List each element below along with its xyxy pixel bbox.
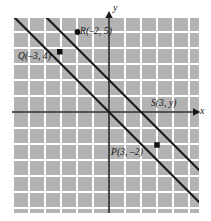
point-marker-P: [154, 142, 160, 148]
point-label-Q: Q(–3, 4): [18, 52, 51, 62]
y-axis-label: y: [113, 3, 117, 13]
point-label-P: P(3, –2): [111, 148, 143, 158]
point-label-S: S(3, y): [151, 99, 177, 109]
point-label-R: R(–2, 5): [80, 27, 112, 37]
coordinate-plane-figure: y x R(–2, 5) Q(–3, 4) S(3, y) P(3, –2): [0, 0, 211, 221]
x-axis-label: x: [200, 106, 204, 116]
point-marker-Q: [57, 49, 63, 55]
y-axis-arrowhead: [105, 11, 112, 18]
